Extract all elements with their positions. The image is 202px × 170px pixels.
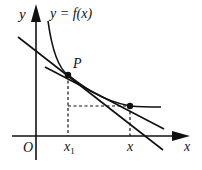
secant-line <box>18 37 163 150</box>
tangent-line <box>45 67 164 129</box>
origin-label: O <box>23 141 33 155</box>
x-tick-label: x <box>127 140 133 154</box>
y-axis-arrow-icon <box>31 4 41 22</box>
x1-label: x1 <box>64 140 75 156</box>
function-diagram: y y = f(x) P O x1 x x <box>0 0 202 170</box>
y-axis-label: y <box>19 7 26 22</box>
x1-label-subscript: 1 <box>70 146 75 156</box>
point-q <box>127 103 133 109</box>
point-p-label: P <box>73 57 82 71</box>
curve-label: y = f(x) <box>50 7 92 21</box>
x-axis-label: x <box>184 140 190 154</box>
point-p <box>65 72 71 78</box>
curve-f <box>48 21 161 107</box>
